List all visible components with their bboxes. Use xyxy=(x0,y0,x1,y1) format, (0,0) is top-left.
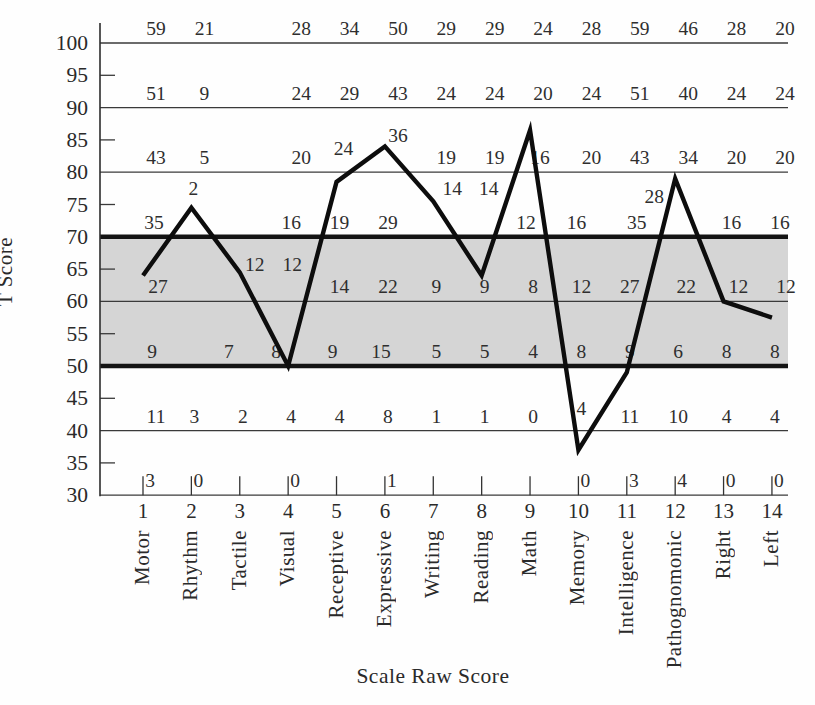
profile-line-layer xyxy=(0,0,815,705)
t-score-profile-line xyxy=(143,130,772,450)
y-axis-title: T Score xyxy=(0,237,18,306)
x-axis-title: Scale Raw Score xyxy=(95,664,771,689)
t-score-profile-chart: 1009590858075706560555045403530592128345… xyxy=(0,0,815,705)
